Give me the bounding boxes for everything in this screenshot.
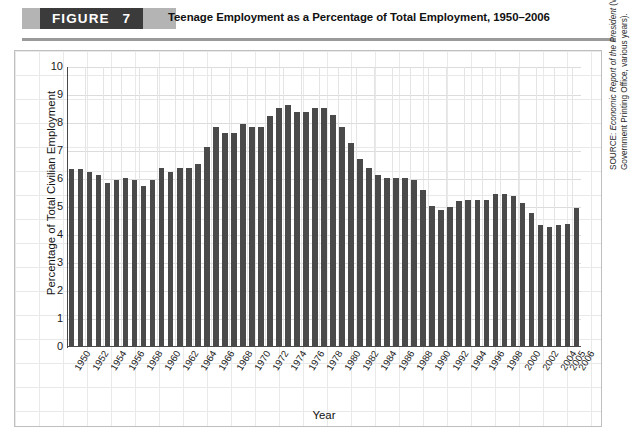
x-tick-label: 1988: [415, 349, 434, 372]
bar: [141, 186, 147, 347]
bar: [538, 225, 544, 347]
y-tick-label: 1: [39, 313, 63, 324]
bar: [339, 127, 345, 347]
x-tick-label: 1964: [198, 349, 217, 372]
bar: [159, 168, 165, 347]
bar: [565, 224, 571, 347]
bar: [240, 124, 246, 347]
bar: [529, 213, 535, 347]
bar: [321, 108, 327, 347]
bar: [69, 169, 75, 347]
bar: [484, 200, 490, 347]
bar: [511, 196, 517, 347]
x-tick-label: 1994: [469, 349, 488, 372]
x-axis-ticks: 1950195219541956195819601962196419661968…: [67, 349, 587, 409]
bar: [222, 133, 228, 347]
bar: [123, 178, 129, 347]
x-tick-label: 1984: [379, 349, 398, 372]
bar: [447, 207, 453, 347]
bar: [493, 194, 499, 347]
source-note: SOURCE: Economic Report of the President…: [608, 0, 630, 170]
bar: [375, 175, 381, 347]
x-tick-label: 1996: [487, 349, 506, 372]
bar: [393, 178, 399, 347]
y-tick-label: 10: [39, 61, 63, 72]
source-title: Economic Report of the President: [609, 8, 618, 130]
bar: [168, 172, 174, 347]
x-tick-label: 1960: [162, 349, 181, 372]
bar: [574, 208, 580, 347]
x-tick-label: 1970: [253, 349, 272, 372]
bar: [267, 116, 273, 347]
bar: [78, 169, 84, 347]
y-tick-label: 3: [39, 257, 63, 268]
x-tick-label: 1980: [343, 349, 362, 372]
bar: [411, 180, 417, 347]
x-tick-label: 1952: [90, 349, 109, 372]
y-tick-label: 8: [39, 117, 63, 128]
y-tick-label: 0: [39, 341, 63, 352]
figure-banner: FIGURE 7: [22, 8, 176, 29]
bar: [520, 203, 526, 347]
figure-title: Teenage Employment as a Percentage of To…: [168, 11, 550, 23]
x-tick-label: 1950: [72, 349, 91, 372]
bar: [384, 178, 390, 347]
x-tick-label: 1958: [144, 349, 163, 372]
bar: [258, 127, 264, 347]
bar: [456, 201, 462, 347]
bar: [556, 225, 562, 347]
bar: [114, 180, 120, 347]
x-tick-label: 1962: [180, 349, 199, 372]
x-tick-label: 2002: [541, 349, 560, 372]
bar: [312, 108, 318, 347]
bar: [213, 127, 219, 347]
bar-series: [67, 67, 581, 347]
x-tick-label: 1976: [307, 349, 326, 372]
y-tick-label: 4: [39, 229, 63, 240]
bar: [429, 206, 435, 347]
bar: [96, 175, 102, 347]
bar: [366, 168, 372, 347]
y-tick-label: 5: [39, 201, 63, 212]
x-tick-label: 1966: [216, 349, 235, 372]
bar: [502, 194, 508, 347]
y-tick-label: 9: [39, 89, 63, 100]
bar: [231, 133, 237, 347]
bar: [330, 115, 336, 347]
x-tick-label: 1992: [451, 349, 470, 372]
figure-header: FIGURE 7 Teenage Employment as a Percent…: [0, 8, 637, 32]
x-tick-label: 1982: [361, 349, 380, 372]
x-tick-label: 1972: [271, 349, 290, 372]
bar: [294, 112, 300, 347]
bar: [150, 180, 156, 347]
header-divider: [22, 38, 616, 41]
x-tick-label: 2000: [523, 349, 542, 372]
bar: [303, 112, 309, 347]
bar: [276, 108, 282, 347]
bar: [547, 227, 553, 347]
bar: [132, 180, 138, 347]
x-tick-label: 1990: [433, 349, 452, 372]
x-tick-label: 1974: [289, 349, 308, 372]
bar: [195, 164, 201, 347]
bar: [249, 127, 255, 347]
plot-area: [67, 67, 581, 347]
x-tick-label: 1954: [108, 349, 127, 372]
bar: [204, 147, 210, 347]
bar: [402, 178, 408, 347]
banner-left-cap: [22, 8, 40, 29]
bar: [177, 168, 183, 347]
figure-page: FIGURE 7 Teenage Employment as a Percent…: [0, 0, 637, 445]
figure-banner-number: 7: [123, 12, 131, 26]
x-tick-label: 1968: [235, 349, 254, 372]
bar: [348, 143, 354, 347]
y-tick-label: 6: [39, 173, 63, 184]
figure-banner-word: FIGURE: [52, 12, 110, 26]
bar: [357, 159, 363, 347]
x-tick-label: 1978: [325, 349, 344, 372]
bar: [438, 210, 444, 347]
banner-core: FIGURE 7: [40, 8, 143, 29]
bar: [105, 183, 111, 347]
x-axis-label: Year: [67, 409, 581, 421]
bar: [465, 200, 471, 347]
